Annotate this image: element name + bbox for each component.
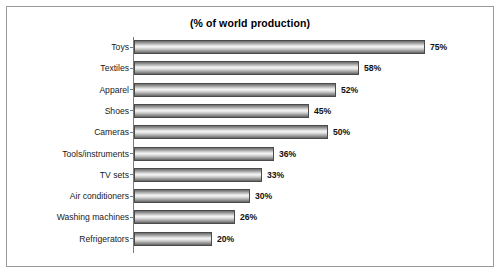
bar (134, 168, 262, 182)
bar (134, 125, 328, 139)
category-label: Shoes (105, 106, 129, 116)
bar-row: Washing machines 26% (7, 207, 495, 227)
category-label: Washing machines (57, 212, 129, 222)
bar-row: Textiles 58% (7, 58, 495, 78)
axis-tick (130, 196, 133, 197)
bar (134, 104, 309, 118)
bar-row: Shoes 45% (7, 101, 495, 121)
bar (134, 83, 336, 97)
bar-value-label: 75% (430, 42, 447, 52)
category-label: Tools/instruments (62, 149, 129, 159)
bar (134, 210, 235, 224)
bar-row: Cameras 50% (7, 122, 495, 142)
bar (134, 147, 274, 161)
bar-value-label: 58% (364, 63, 381, 73)
plot-area: Toys 75% Textiles 58% Apparel 52% Shoes … (7, 33, 495, 261)
category-label: Cameras (94, 127, 129, 137)
axis-tick (130, 68, 133, 69)
axis-tick (130, 89, 133, 90)
bar-value-label: 36% (279, 149, 296, 159)
chart-frame: (% of world production) Toys 75% Textile… (6, 6, 494, 267)
bar-row: TV sets 33% (7, 165, 495, 185)
category-label: Apparel (99, 85, 129, 95)
bar (134, 40, 425, 54)
bar-value-label: 45% (314, 106, 331, 116)
bar-row: Tools/instruments 36% (7, 144, 495, 164)
axis-tick (130, 217, 133, 218)
bar (134, 189, 250, 203)
category-label: Textiles (100, 63, 129, 73)
bar (134, 61, 359, 75)
axis-tick (130, 238, 133, 239)
bar-value-label: 52% (341, 85, 358, 95)
bar-row: Refrigerators 20% (7, 229, 495, 249)
category-label: Air conditioners (70, 191, 129, 201)
bar-row: Toys 75% (7, 37, 495, 57)
axis-tick (130, 174, 133, 175)
bar-row: Apparel 52% (7, 80, 495, 100)
bar-value-label: 30% (255, 191, 272, 201)
axis-tick (130, 47, 133, 48)
category-label: Refrigerators (79, 234, 129, 244)
axis-tick (130, 153, 133, 154)
bar-value-label: 50% (333, 127, 350, 137)
category-label: Toys (111, 42, 129, 52)
bar-value-label: 20% (217, 234, 234, 244)
axis-tick (130, 132, 133, 133)
chart-title: (% of world production) (7, 17, 493, 29)
axis-tick (130, 110, 133, 111)
category-label: TV sets (100, 170, 129, 180)
bar-value-label: 26% (240, 212, 257, 222)
bar-value-label: 33% (267, 170, 284, 180)
bar-row: Air conditioners 30% (7, 186, 495, 206)
bar (134, 232, 212, 246)
